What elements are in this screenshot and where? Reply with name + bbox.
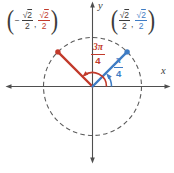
open-paren: (: [111, 7, 118, 34]
angle-label-3pi-4: 3π 4: [91, 43, 105, 65]
angle-denominator: 4: [116, 68, 121, 79]
close-paren: ): [50, 7, 57, 34]
y-axis-label: y: [98, 1, 103, 12]
denominator: 2: [139, 21, 144, 31]
x-axis-label: x: [161, 66, 166, 77]
blue-point-dot: [124, 49, 129, 54]
comma: ,: [34, 20, 36, 29]
radicand: 2: [27, 10, 32, 20]
x-axis-right-arrow-icon: [165, 84, 171, 89]
point-label-right: ( √2 2 , √2 2 ): [111, 5, 155, 36]
radicand: 2: [141, 10, 146, 20]
radicand: 2: [124, 10, 129, 20]
angle-label-pi-4: π 4: [114, 56, 123, 78]
radicand: 2: [44, 10, 49, 20]
x-axis-left-arrow-icon: [6, 84, 12, 89]
angle-numerator: π: [114, 56, 123, 68]
denominator: 2: [42, 21, 47, 31]
point-label-left: ( − √2 2 , √2 2 ): [7, 5, 58, 36]
y-axis-top-arrow-icon: [90, 2, 95, 8]
y-coordinate-fraction: √2 2: [38, 11, 49, 31]
red-terminal-side: [58, 52, 93, 87]
y-axis-bottom-arrow-icon: [90, 158, 95, 164]
y-coordinate-fraction: √2 2: [135, 11, 146, 31]
angle-numerator: 3π: [91, 43, 105, 55]
open-paren: (: [7, 7, 14, 34]
x-coordinate-fraction: √2 2: [22, 11, 33, 31]
unit-circle-diagram: ( − √2 2 , √2 2 ) ( √2 2 , √2 2 ) 3π 4 π…: [0, 0, 174, 173]
angle-denominator: 4: [95, 55, 100, 66]
comma: ,: [131, 20, 133, 29]
red-point-dot: [55, 49, 60, 54]
denominator: 2: [122, 21, 127, 31]
x-coordinate-fraction: √2 2: [119, 11, 130, 31]
denominator: 2: [25, 21, 30, 31]
minus-sign: −: [15, 16, 20, 25]
close-paren: ): [148, 7, 155, 34]
